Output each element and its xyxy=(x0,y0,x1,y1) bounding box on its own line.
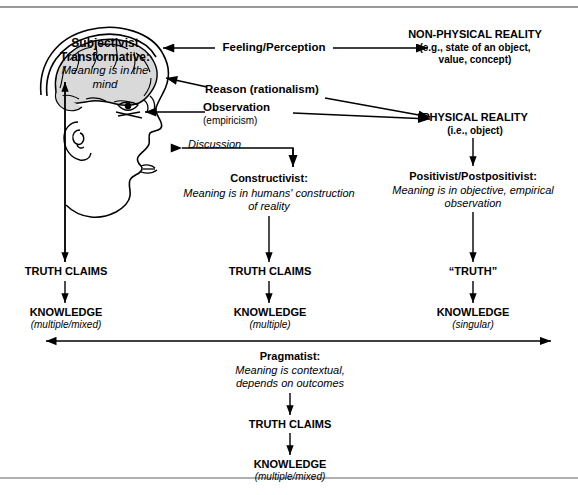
mid-knowledge-sub: (multiple) xyxy=(209,319,331,330)
right-knowledge: KNOWLEDGE xyxy=(412,306,534,318)
mid-knowledge: KNOWLEDGE xyxy=(209,306,331,318)
left-knowledge-sub: (multiple/mixed) xyxy=(5,319,127,330)
brain-label: Subjectivist Transformative: Meaning is … xyxy=(41,36,169,91)
frame-top-border xyxy=(0,6,578,8)
pragmatist-title: Pragmatist: xyxy=(230,350,350,362)
arrow-discussion xyxy=(182,148,293,167)
brain-label-line2: Transformative: xyxy=(41,50,169,64)
constructivist-title: Constructivist: xyxy=(179,172,359,184)
left-knowledge: KNOWLEDGE xyxy=(5,306,127,318)
positivist-title: Positivist/Postpositivist: xyxy=(383,170,563,182)
constructivist-line1: Meaning is in humans' construction xyxy=(169,187,369,199)
diagram-canvas: Subjectivist Transformative: Meaning is … xyxy=(0,0,578,495)
pragmatist-line2: depends on outcomes xyxy=(215,377,365,389)
pragmatist-truth-claims: TRUTH CLAIMS xyxy=(230,418,350,430)
label-observation: Observation xyxy=(203,101,295,114)
positivist-line1: Meaning is in objective, empirical xyxy=(378,184,568,196)
right-truth: “TRUTH” xyxy=(412,265,534,277)
pragmatist-line1: Meaning is contextual, xyxy=(215,364,365,376)
brain-label-line3: Meaning is in the xyxy=(41,64,169,78)
positivist-line2: observation xyxy=(378,197,568,209)
nonphysical-reality-title: NON-PHYSICAL REALITY xyxy=(380,28,570,40)
physical-reality-title: PHYSICAL REALITY xyxy=(390,111,560,123)
brain-label-line1: Subjectivist xyxy=(41,36,169,50)
label-feeling-perception: Feeling/Perception xyxy=(213,41,335,54)
label-reason: Reason (rationalism) xyxy=(205,83,327,96)
right-knowledge-sub: (singular) xyxy=(412,319,534,330)
pragmatist-knowledge-sub: (multiple/mixed) xyxy=(230,471,350,482)
label-observation-sub: (empiricism) xyxy=(203,115,295,126)
nonphysical-reality-sub-line1: (e.g., state of an object, xyxy=(380,42,570,53)
ear-icon xyxy=(64,122,91,160)
label-reason-text: Reason (rationalism) xyxy=(205,83,319,95)
label-discussion: Discussion xyxy=(188,138,288,150)
eye-icon xyxy=(116,96,155,118)
pragmatist-knowledge: KNOWLEDGE xyxy=(230,458,350,470)
mid-truth-claims: TRUTH CLAIMS xyxy=(209,265,331,277)
nonphysical-reality-sub-line2: value, concept) xyxy=(380,54,570,65)
physical-reality-sub: (i.e., object) xyxy=(390,125,560,136)
constructivist-line2: of reality xyxy=(169,200,369,212)
left-truth-claims: TRUTH CLAIMS xyxy=(5,265,127,277)
brain-label-line4: mind xyxy=(41,78,169,92)
mouth-icon xyxy=(141,165,157,173)
